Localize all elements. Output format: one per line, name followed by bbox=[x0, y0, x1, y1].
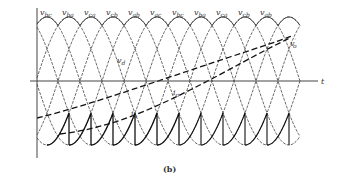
vd-segment bbox=[91, 113, 113, 145]
vd-segment bbox=[223, 113, 245, 145]
phase-label-ba: vba bbox=[62, 8, 74, 18]
phase-label-cb: vcb bbox=[106, 8, 118, 18]
vd-segment bbox=[201, 113, 223, 145]
time-axis-label: t bbox=[321, 77, 325, 86]
vd-segment bbox=[267, 113, 289, 145]
peak-arc bbox=[256, 17, 278, 26]
vd-segment bbox=[157, 113, 179, 145]
peak-arc bbox=[80, 17, 102, 26]
phase-labels: vbcvbavcavcbvabvacvbcvbavcavcbvab bbox=[40, 8, 272, 18]
peak-arc bbox=[124, 17, 146, 26]
peak-arc bbox=[58, 17, 80, 26]
peak-arc bbox=[168, 17, 190, 26]
peak-arc bbox=[37, 17, 58, 26]
io-curve bbox=[60, 38, 290, 134]
peak-arc bbox=[212, 17, 234, 26]
figure-caption: (b) bbox=[163, 164, 176, 174]
phase-label-ab: vab bbox=[128, 8, 140, 18]
peak-arc bbox=[146, 17, 168, 26]
vd-segment bbox=[47, 113, 69, 145]
peak-arc bbox=[278, 17, 300, 26]
phase-label-ba: vba bbox=[194, 8, 206, 18]
phase-label-bc: vbc bbox=[40, 8, 52, 18]
vd-label: vd bbox=[117, 56, 126, 66]
phase-label-ca: vca bbox=[84, 8, 96, 18]
phase-label-cb: vcb bbox=[238, 8, 250, 18]
peak-arc bbox=[234, 17, 256, 26]
peak-arc bbox=[102, 17, 124, 26]
phase-label-bc: vbc bbox=[172, 8, 184, 18]
phase-label-ab: vab bbox=[260, 8, 272, 18]
vd-segment bbox=[135, 113, 157, 145]
rectifier-waveform-diagram: t vbcvbavcavcbvabvacvbcvbavcavcbvab vd i… bbox=[0, 0, 342, 179]
vo-prime-label: v′o bbox=[290, 37, 297, 49]
phase-label-ca: vca bbox=[216, 8, 228, 18]
io-label-upper: io bbox=[173, 88, 180, 98]
vd-segment bbox=[179, 113, 201, 145]
vd-segment bbox=[245, 113, 267, 145]
vo-prime-curve bbox=[37, 36, 292, 118]
phase-label-ac: vac bbox=[150, 8, 162, 18]
peak-arc bbox=[190, 17, 212, 26]
current-curves bbox=[37, 36, 292, 134]
